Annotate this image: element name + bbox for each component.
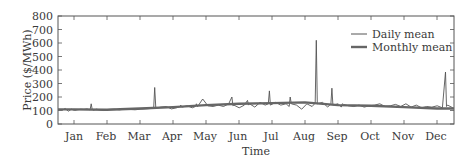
y-tick-200: 200 <box>32 91 53 104</box>
price-chart: 0 100 200 300 400 500 600 700 800 Price … <box>0 0 471 162</box>
x-tick-jun: Jun <box>228 130 248 143</box>
y-tick-800: 800 <box>32 10 53 23</box>
legend-daily-label: Daily mean <box>372 28 435 41</box>
x-tick-apr: Apr <box>161 130 183 143</box>
legend-monthly-label: Monthly mean <box>372 41 452 54</box>
x-axis-label: Time <box>242 145 270 158</box>
x-tick-jan: Jan <box>64 130 83 143</box>
y-tick-400: 400 <box>32 64 53 77</box>
x-tick-feb: Feb <box>96 130 117 143</box>
y-tick-500: 500 <box>32 51 53 64</box>
legend: Daily mean Monthly mean <box>351 28 452 54</box>
y-tick-100: 100 <box>32 105 53 118</box>
y-tick-300: 300 <box>32 78 53 91</box>
x-tick-jul: Jul <box>262 130 278 143</box>
x-tick-nov: Nov <box>392 130 415 143</box>
x-tick-oct: Oct <box>360 130 380 143</box>
x-tick-mar: Mar <box>127 130 151 143</box>
y-tick-0: 0 <box>46 118 53 131</box>
y-tick-600: 600 <box>32 37 53 50</box>
y-axis-label: Price ($/MWh) <box>21 29 34 110</box>
x-tick-dec: Dec <box>425 130 447 143</box>
x-tick-aug: Aug <box>292 130 315 143</box>
y-tick-700: 700 <box>32 24 53 37</box>
x-tick-may: May <box>193 130 218 143</box>
x-tick-sep: Sep <box>326 130 347 143</box>
